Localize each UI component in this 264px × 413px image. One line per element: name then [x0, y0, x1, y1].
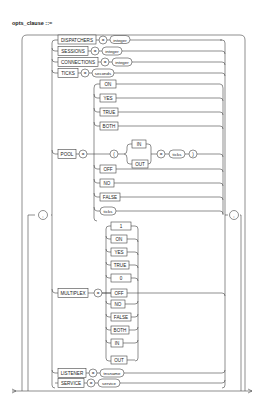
svg-text:=: =	[160, 152, 163, 157]
svg-text:YES: YES	[103, 96, 112, 101]
svg-text:integer: integer	[113, 38, 127, 43]
svg-text:,: ,	[233, 213, 234, 218]
svg-text:=: =	[104, 60, 107, 65]
separator-left: ,	[39, 211, 48, 220]
svg-text:TICKS: TICKS	[61, 71, 75, 76]
svg-text:=: =	[84, 71, 87, 76]
svg-text:MULTIPLEX: MULTIPLEX	[60, 291, 85, 296]
svg-text:OUT: OUT	[114, 358, 124, 363]
svg-text:=: =	[102, 38, 105, 43]
svg-text:IN: IN	[115, 341, 120, 346]
svg-text:service: service	[102, 381, 116, 386]
svg-text:integer: integer	[105, 49, 119, 54]
svg-text:BOTH: BOTH	[103, 124, 116, 129]
svg-text:OFF: OFF	[114, 291, 123, 296]
svg-text:SESSIONS: SESSIONS	[61, 49, 85, 54]
svg-text:FALSE: FALSE	[103, 195, 117, 200]
svg-text:seconds: seconds	[95, 71, 112, 76]
option-dispatchers: DISPATCHERS = integer	[55, 35, 222, 44]
svg-text:=: =	[90, 381, 93, 386]
syntax-diagram: opts_clause ::= , , DISPATCHERS = intege…	[0, 0, 264, 413]
svg-text:POOL: POOL	[61, 152, 74, 157]
svg-text:YES: YES	[114, 250, 123, 255]
svg-text:LISTENER: LISTENER	[61, 371, 84, 376]
option-ticks: TICKS = seconds	[52, 69, 225, 78]
svg-text:DISPATCHERS: DISPATCHERS	[61, 38, 93, 43]
svg-text:=: =	[97, 291, 100, 296]
svg-text:ticks: ticks	[173, 152, 183, 157]
svg-text:tnsname: tnsname	[104, 371, 121, 376]
svg-text:=: =	[92, 371, 95, 376]
option-connections: CONNECTIONS = integer	[52, 58, 225, 67]
svg-text:IN: IN	[137, 142, 142, 147]
svg-text:NO: NO	[104, 181, 111, 186]
svg-text:TRUE: TRUE	[103, 110, 116, 115]
svg-text:ON: ON	[105, 82, 112, 87]
svg-text:=: =	[82, 152, 85, 157]
diagram-title: opts_clause ::=	[12, 20, 52, 26]
svg-text:0: 0	[120, 276, 123, 281]
svg-text:BOTH: BOTH	[114, 328, 127, 333]
separator-right: ,	[230, 211, 239, 220]
option-service: SERVICE = service	[55, 379, 225, 388]
option-multiplex: MULTIPLEX = 1 ON YES TRUE 0	[52, 222, 225, 364]
svg-text:SERVICE: SERVICE	[61, 381, 81, 386]
svg-text:ON: ON	[116, 237, 123, 242]
svg-text:CONNECTIONS: CONNECTIONS	[61, 60, 95, 65]
svg-text:integer: integer	[115, 60, 129, 65]
svg-text:TRUE: TRUE	[114, 263, 127, 268]
svg-text:,: ,	[42, 213, 43, 218]
main-track	[12, 35, 252, 391]
option-listener: LISTENER = tnsname	[52, 369, 225, 378]
svg-text:=: =	[94, 49, 97, 54]
svg-text:ticks: ticks	[104, 209, 114, 214]
svg-text:FALSE: FALSE	[114, 315, 128, 320]
svg-text:NO: NO	[115, 302, 122, 307]
option-pool: POOL = ON YES TRUE BOTH ( IN	[52, 80, 223, 221]
svg-text:OFF: OFF	[103, 167, 112, 172]
option-sessions: SESSIONS = integer	[52, 47, 225, 56]
svg-text:1: 1	[120, 224, 123, 229]
svg-text:OUT: OUT	[135, 162, 145, 167]
